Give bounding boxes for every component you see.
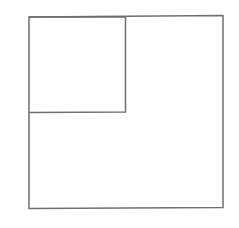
- diagram-canvas: [0, 0, 239, 228]
- nested-squares-diagram: [0, 0, 239, 228]
- inner-square: [29, 17, 126, 113]
